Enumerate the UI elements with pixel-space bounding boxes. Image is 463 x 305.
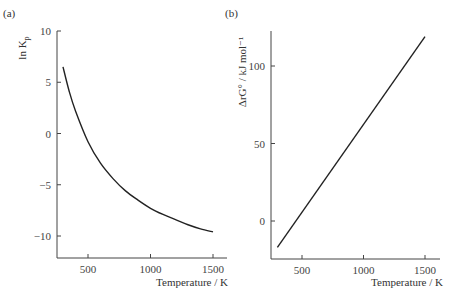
y-tick-label: 0	[260, 215, 266, 227]
panel-a-y-axis-title: ln Kp	[16, 36, 31, 59]
panel-a-ylabel-main: ln K	[16, 40, 28, 59]
panel-a-label: (a)	[3, 7, 16, 20]
x-tick-label: 1000	[140, 263, 163, 275]
x-tick-label: 1000	[353, 264, 376, 276]
y-tick-label: −10	[34, 230, 52, 242]
y-tick-label: 10	[40, 25, 52, 37]
panel-b-y-axis-title: ΔrG° / kJ mol⁻¹	[236, 37, 248, 107]
x-tick-label: 1500	[414, 264, 437, 276]
x-tick-label: 1500	[202, 263, 225, 275]
panel-b-label: (b)	[225, 7, 238, 20]
x-tick-label: 500	[80, 263, 97, 275]
y-tick-label: 5	[46, 76, 52, 88]
y-tick-label: −5	[39, 179, 51, 191]
panel-a-ylabel-sub: p	[22, 36, 31, 40]
panel-b-x-axis-title: Temperature / K	[371, 276, 443, 288]
panel-a-x-axis-title: Temperature / K	[156, 276, 228, 288]
panel-b-line	[277, 37, 425, 248]
panel-a-curve	[63, 67, 213, 232]
panel-b-x-ticks: 50010001500	[294, 255, 437, 276]
y-tick-label: 100	[249, 60, 266, 72]
panel-a: (a) ln Kp 1050−5−10 50010001500 Temperat…	[3, 7, 228, 288]
panel-b: (b) ΔrG° / kJ mol⁻¹ 100500 50010001500 T…	[225, 7, 443, 288]
panel-a-x-ticks: 50010001500	[80, 254, 225, 275]
y-tick-label: 50	[254, 138, 266, 150]
svg-text:ln Kp: ln Kp	[16, 36, 31, 59]
y-tick-label: 0	[46, 128, 52, 140]
chart-figure: (a) ln Kp 1050−5−10 50010001500 Temperat…	[0, 0, 463, 305]
x-tick-label: 500	[294, 264, 311, 276]
